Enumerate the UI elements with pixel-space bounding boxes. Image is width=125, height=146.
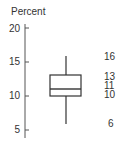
q1-value-label: 10 xyxy=(104,90,115,100)
iqr-box xyxy=(50,75,81,96)
max-value-label: 16 xyxy=(104,52,115,62)
min-value-label: 6 xyxy=(108,119,114,129)
